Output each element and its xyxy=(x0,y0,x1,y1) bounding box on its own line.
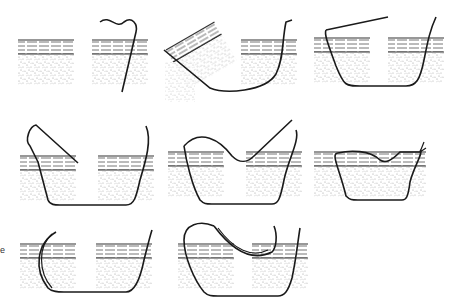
panel-8 xyxy=(178,223,308,296)
edge-label: e xyxy=(0,246,5,255)
panel-4 xyxy=(20,125,154,205)
panel-6 xyxy=(314,142,426,200)
panel-1 xyxy=(18,20,148,92)
suture-diagram xyxy=(0,0,460,302)
panel-7 xyxy=(20,230,152,292)
panel-3 xyxy=(314,17,444,86)
panel-2 xyxy=(164,20,297,102)
panel-5 xyxy=(168,120,302,204)
